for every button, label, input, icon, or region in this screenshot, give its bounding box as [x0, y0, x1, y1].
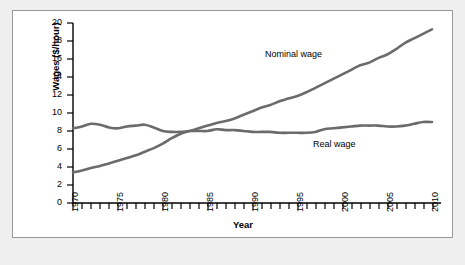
x-tick-label-1970: 1970: [70, 192, 80, 212]
y-tick-label-4: 4: [40, 161, 62, 171]
chart-figure: Wages ($/hour) Year 0 2 4 6 8 10 12 14 1…: [0, 0, 465, 265]
x-tick-label-1975: 1975: [115, 192, 125, 212]
x-tick-label-1985: 1985: [205, 192, 215, 212]
y-tick-label-2: 2: [40, 179, 62, 189]
x-tick-label-2010: 2010: [430, 192, 440, 212]
y-tick-label-12: 12: [40, 89, 62, 99]
y-tick-label-6: 6: [40, 143, 62, 153]
y-tick-label-20: 20: [40, 17, 62, 27]
y-tick-label-16: 16: [40, 53, 62, 63]
y-tick-label-18: 18: [40, 35, 62, 45]
chart-axes: [73, 23, 441, 203]
y-axis-ticks: [67, 23, 73, 203]
chart-plot-frame: Wages ($/hour) Year 0 2 4 6 8 10 12 14 1…: [12, 10, 453, 238]
y-tick-label-8: 8: [40, 125, 62, 135]
y-tick-label-10: 10: [40, 107, 62, 117]
x-tick-label-2000: 2000: [340, 192, 350, 212]
x-tick-label-1980: 1980: [160, 192, 170, 212]
series-annotation-real-wage: Real wage: [313, 139, 356, 149]
series-annotation-nominal-wage: Nominal wage: [265, 49, 322, 59]
series-line-real-wage: [73, 122, 432, 133]
x-axis-label: Year: [163, 219, 323, 230]
y-tick-label-0: 0: [40, 197, 62, 207]
x-tick-label-1990: 1990: [250, 192, 260, 212]
series-line-nominal-wage: [73, 29, 432, 172]
x-tick-label-2005: 2005: [385, 192, 395, 212]
x-tick-label-1995: 1995: [295, 192, 305, 212]
y-tick-label-14: 14: [40, 71, 62, 81]
